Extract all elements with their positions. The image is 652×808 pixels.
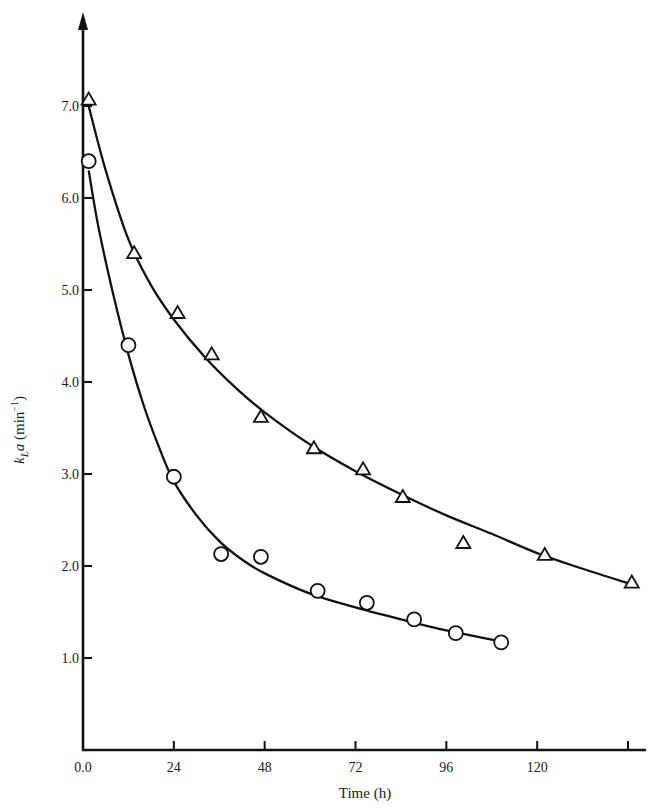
y-tick-label: 2.0 [62, 559, 80, 574]
circle-marker-icon [449, 626, 463, 640]
y-tick-label: 1.0 [62, 651, 80, 666]
x-tick-label: 24 [167, 760, 181, 775]
y-tick-label: 4.0 [62, 375, 80, 390]
circle-marker-icon [214, 547, 228, 561]
y-tick-label: 7.0 [62, 99, 80, 114]
circle-marker-icon [167, 470, 181, 484]
triangle-marker-icon [171, 306, 185, 318]
y-tick-label: 3.0 [62, 467, 80, 482]
circle-marker-icon [407, 612, 421, 626]
triangle-marker-icon [205, 347, 219, 359]
circle-marker-icon [254, 550, 268, 564]
data-markers [82, 93, 639, 650]
triangle-marker-icon [625, 576, 639, 588]
y-axis-arrow-icon [78, 12, 88, 30]
y-tick-label: 5.0 [62, 283, 80, 298]
x-axis-title: Time (h) [339, 785, 391, 802]
triangle-marker-icon [456, 536, 470, 548]
circle-marker-icon [82, 154, 96, 168]
circle-marker-icon [121, 338, 135, 352]
triangle-marker-icon [127, 246, 141, 258]
circle-marker-icon [494, 635, 508, 649]
x-tick-label: 48 [258, 760, 272, 775]
x-tick-label: 120 [527, 760, 548, 775]
y-tick-label: 6.0 [62, 191, 80, 206]
y-axis-title: kLa (min−1) [9, 396, 30, 464]
kla-vs-time-chart: 1.02.03.04.05.06.07.00.024487296120 Time… [0, 0, 652, 808]
axes: 1.02.03.04.05.06.07.00.024487296120 [62, 12, 647, 775]
circles-fit-curve [89, 170, 502, 641]
fit-curves [89, 106, 632, 641]
x-tick-label: 72 [349, 760, 363, 775]
triangles-fit-curve [89, 106, 632, 584]
x-tick-label: 0.0 [74, 760, 92, 775]
x-tick-label: 96 [439, 760, 453, 775]
circle-marker-icon [360, 596, 374, 610]
axis-labels: Time (h) kLa (min−1) [9, 396, 391, 802]
circle-marker-icon [311, 584, 325, 598]
triangle-marker-icon [356, 462, 370, 474]
triangle-marker-icon [254, 410, 268, 422]
